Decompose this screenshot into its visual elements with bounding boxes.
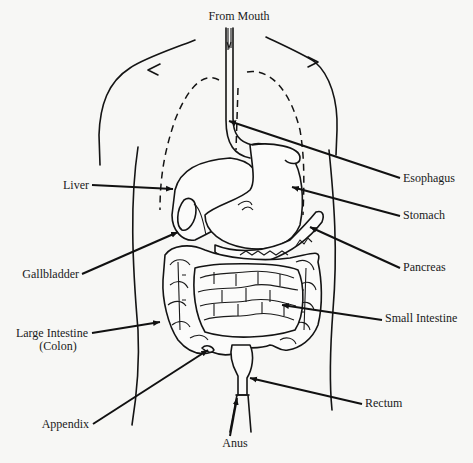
label-gallbladder: Gallbladder <box>22 267 79 281</box>
label-pancreas: Pancreas <box>403 260 446 274</box>
stomach-leader-line <box>292 187 400 216</box>
rectum-leader-line <box>250 378 362 404</box>
label-esophagus: Esophagus <box>403 171 455 185</box>
label-colon: (Colon) <box>39 339 76 353</box>
label-appendix: Appendix <box>42 417 89 431</box>
anus-leader-line <box>230 398 237 436</box>
label-from-mouth: From Mouth <box>208 9 269 23</box>
label-small-intestine: Small Intestine <box>385 311 457 325</box>
digestive-system-diagram: From MouthLiverGallbladderLarge Intestin… <box>0 0 473 463</box>
esophagus <box>226 28 252 158</box>
label-large-intestine: Large Intestine <box>16 326 88 340</box>
label-rectum: Rectum <box>365 396 403 410</box>
appendix-leader-line <box>93 350 208 424</box>
large-intestine-leader-line <box>92 322 160 333</box>
label-anus: Anus <box>222 436 248 450</box>
small-intestine <box>194 264 303 337</box>
label-liver: Liver <box>63 178 89 192</box>
pancreas-leader-line <box>310 227 400 268</box>
label-stomach: Stomach <box>403 208 445 222</box>
